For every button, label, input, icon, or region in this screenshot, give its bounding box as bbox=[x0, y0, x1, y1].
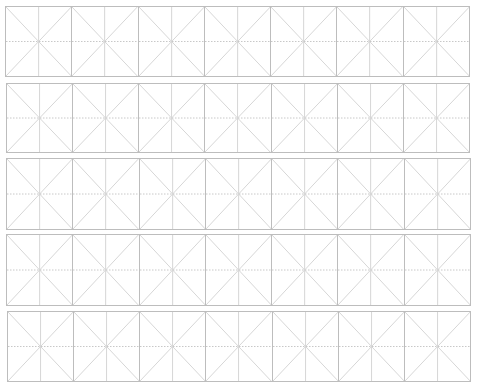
mi-guide-lines-icon bbox=[273, 312, 338, 381]
mi-grid-cell bbox=[272, 84, 338, 152]
mi-guide-lines-icon bbox=[140, 235, 205, 305]
mi-grid-cell bbox=[74, 312, 140, 381]
grid-row bbox=[6, 234, 471, 306]
mi-guide-lines-icon bbox=[405, 312, 470, 381]
mi-guide-lines-icon bbox=[8, 312, 73, 381]
mi-grid-cell bbox=[8, 312, 74, 381]
mi-grid-cell bbox=[140, 235, 206, 305]
mi-guide-lines-icon bbox=[140, 159, 205, 229]
mi-guide-lines-icon bbox=[338, 159, 403, 229]
mi-grid-cell bbox=[338, 159, 404, 229]
mi-guide-lines-icon bbox=[6, 7, 71, 76]
mi-guide-lines-icon bbox=[271, 7, 336, 76]
mi-grid-cell bbox=[6, 7, 72, 76]
mi-guide-lines-icon bbox=[139, 7, 204, 76]
mi-guide-lines-icon bbox=[139, 84, 204, 152]
mi-guide-lines-icon bbox=[73, 235, 138, 305]
mi-grid-cell bbox=[405, 235, 470, 305]
mi-guide-lines-icon bbox=[74, 312, 139, 381]
mi-guide-lines-icon bbox=[206, 312, 271, 381]
mi-grid-cell bbox=[73, 235, 139, 305]
mi-grid-cell bbox=[405, 312, 470, 381]
mi-guide-lines-icon bbox=[72, 7, 137, 76]
mi-guide-lines-icon bbox=[140, 312, 205, 381]
mi-grid-cell bbox=[140, 159, 206, 229]
mi-grid-cell bbox=[405, 159, 470, 229]
mi-grid-cell bbox=[404, 84, 469, 152]
mi-grid-cell bbox=[338, 235, 404, 305]
mi-grid-cell bbox=[206, 312, 272, 381]
mi-grid-cell bbox=[338, 84, 404, 152]
mi-grid-cell bbox=[337, 7, 403, 76]
mi-guide-lines-icon bbox=[338, 84, 403, 152]
mi-guide-lines-icon bbox=[73, 159, 138, 229]
mi-guide-lines-icon bbox=[7, 235, 72, 305]
mi-guide-lines-icon bbox=[404, 7, 469, 76]
grid-row bbox=[7, 311, 471, 382]
mi-guide-lines-icon bbox=[206, 159, 271, 229]
mi-grid-cell bbox=[139, 7, 205, 76]
mi-grid-cell bbox=[273, 312, 339, 381]
mi-grid-cell bbox=[272, 235, 338, 305]
grid-row bbox=[5, 6, 470, 77]
mi-grid-cell bbox=[206, 235, 272, 305]
mi-guide-lines-icon bbox=[205, 84, 270, 152]
mi-grid-cell bbox=[140, 312, 206, 381]
mi-guide-lines-icon bbox=[7, 159, 72, 229]
mi-guide-lines-icon bbox=[206, 235, 271, 305]
mi-grid-cell bbox=[205, 7, 271, 76]
mi-guide-lines-icon bbox=[337, 7, 402, 76]
mi-guide-lines-icon bbox=[338, 235, 403, 305]
mi-guide-lines-icon bbox=[405, 159, 470, 229]
mi-guide-lines-icon bbox=[339, 312, 404, 381]
mi-grid-cell bbox=[139, 84, 205, 152]
mi-guide-lines-icon bbox=[404, 84, 469, 152]
grid-row bbox=[6, 158, 471, 230]
mi-guide-lines-icon bbox=[73, 84, 138, 152]
mi-grid-cell bbox=[205, 84, 271, 152]
mi-grid-cell bbox=[7, 235, 73, 305]
grid-row bbox=[6, 83, 470, 153]
mi-grid-cell bbox=[72, 7, 138, 76]
mi-guide-lines-icon bbox=[7, 84, 72, 152]
mi-guide-lines-icon bbox=[205, 7, 270, 76]
mi-grid-cell bbox=[339, 312, 405, 381]
mi-grid-cell bbox=[272, 159, 338, 229]
mi-grid-cell bbox=[7, 159, 73, 229]
mi-grid-cell bbox=[206, 159, 272, 229]
mi-guide-lines-icon bbox=[272, 159, 337, 229]
mi-grid-cell bbox=[73, 159, 139, 229]
mi-grid-cell bbox=[7, 84, 73, 152]
mi-grid-cell bbox=[271, 7, 337, 76]
mi-grid-cell bbox=[73, 84, 139, 152]
mi-guide-lines-icon bbox=[405, 235, 470, 305]
mi-guide-lines-icon bbox=[272, 84, 337, 152]
mi-guide-lines-icon bbox=[272, 235, 337, 305]
mi-grid-cell bbox=[404, 7, 469, 76]
